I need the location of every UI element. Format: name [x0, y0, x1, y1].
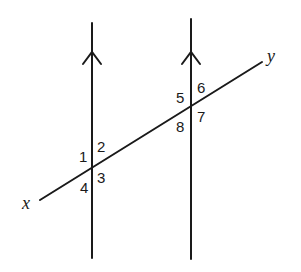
angle-6: 6 [197, 79, 205, 96]
angle-4: 4 [80, 179, 88, 196]
angle-2: 2 [97, 138, 105, 155]
right-parallel-line [182, 19, 200, 259]
angle-5: 5 [176, 89, 184, 106]
label-y: y [265, 46, 275, 66]
angle-8: 8 [176, 118, 184, 135]
transversal-line [40, 62, 262, 200]
angle-1: 1 [79, 148, 87, 165]
parallel-lines-diagram: x y 1 2 3 4 5 6 7 8 [0, 0, 301, 272]
angle-3: 3 [97, 169, 105, 186]
label-x: x [21, 193, 30, 213]
angle-7: 7 [197, 108, 205, 125]
